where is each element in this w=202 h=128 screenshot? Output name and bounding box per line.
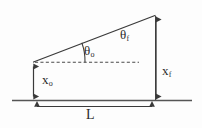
- diagram-canvas: [0, 0, 202, 128]
- x-initial-subscript: o: [49, 79, 53, 88]
- theta-final-subscript: f: [126, 34, 129, 43]
- x-final-symbol: x: [162, 63, 169, 78]
- x-initial-symbol: x: [42, 72, 49, 87]
- theta-final-label: θf: [120, 28, 129, 41]
- theta-initial-label: θo: [84, 44, 94, 57]
- x-final-subscript: f: [169, 70, 172, 79]
- length-symbol: L: [86, 107, 95, 122]
- x-final-label: xf: [162, 64, 171, 77]
- theta-initial-subscript: o: [90, 50, 94, 59]
- length-label: L: [86, 108, 95, 122]
- x-initial-label: xo: [42, 73, 53, 86]
- projectile-geometry-diagram: θo θf xo xf L: [0, 0, 202, 128]
